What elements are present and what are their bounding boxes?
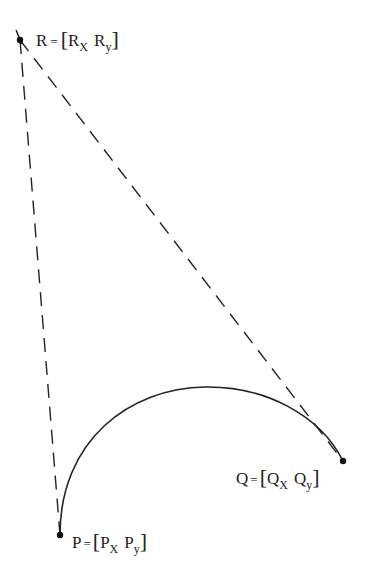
conic-curve-p-to-q	[60, 387, 343, 535]
dashed-line-r-to-q	[20, 40, 343, 461]
svg-text:R=[RXRy]: R=[RXRy]	[36, 26, 119, 54]
svg-text:Q=[QXQy]: Q=[QXQy]	[236, 464, 320, 492]
point-p	[57, 532, 63, 538]
diagram-canvas: R=[RXRy] Q=[QXQy] P=[PXPy]	[0, 0, 369, 580]
label-p: P=[PXPy]	[72, 528, 147, 556]
label-q: Q=[QXQy]	[236, 464, 320, 492]
point-q	[340, 458, 346, 464]
dashed-line-r-to-p	[20, 40, 60, 535]
label-r: R=[RXRy]	[36, 26, 119, 54]
svg-text:P=[PXPy]: P=[PXPy]	[72, 528, 147, 556]
